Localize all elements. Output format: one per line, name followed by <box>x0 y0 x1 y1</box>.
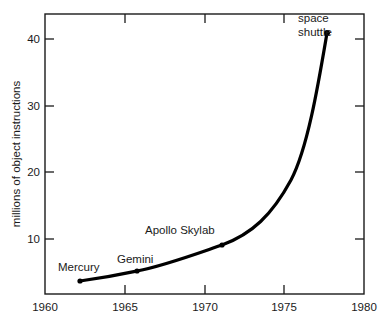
annotation-apollo-skylab: Apollo Skylab <box>145 224 215 236</box>
y-tick-label-10: 10 <box>27 233 40 245</box>
x-tick-label-1975: 1975 <box>271 301 297 313</box>
chart-canvas: 40 30 20 10 1960 1965 1970 1975 1980 mil… <box>0 0 386 329</box>
chart-figure: 40 30 20 10 1960 1965 1970 1975 1980 mil… <box>0 0 386 329</box>
y-axis-right-ticks <box>355 39 364 239</box>
data-point-mercury <box>77 278 82 283</box>
annotation-mercury: Mercury <box>58 261 100 273</box>
x-tick-label-1970: 1970 <box>192 301 218 313</box>
y-tick-label-20: 20 <box>27 166 40 178</box>
x-tick-label-1980: 1980 <box>351 301 377 313</box>
data-point-gemini <box>134 268 139 273</box>
y-tick-label-30: 30 <box>27 100 40 112</box>
x-tick-label-1960: 1960 <box>32 301 58 313</box>
data-curve-series-0 <box>80 33 327 281</box>
x-axis-top-ticks <box>125 14 284 23</box>
data-point-apollo-skylab <box>219 242 224 247</box>
x-tick-label-1965: 1965 <box>112 301 138 313</box>
annotation-space-shuttle-line1: space <box>298 12 329 24</box>
y-axis-ticks <box>45 39 54 239</box>
y-axis-title: millions of object instructions <box>10 81 22 228</box>
x-axis-ticks <box>125 285 284 294</box>
annotation-space-shuttle-line2: shuttle <box>298 26 332 38</box>
y-tick-label-40: 40 <box>27 33 40 45</box>
annotation-gemini: Gemini <box>117 253 153 265</box>
